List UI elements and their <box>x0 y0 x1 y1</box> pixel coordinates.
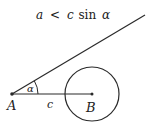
point-a-dot <box>10 92 14 96</box>
point-a-label: A <box>6 98 16 113</box>
triangle-diagram: a < c sin α α A c B <box>0 0 156 131</box>
title-lhs: a <box>36 8 43 22</box>
title-rhs-var: c <box>67 8 74 22</box>
title-operator: < <box>50 8 60 22</box>
point-b-dot <box>91 93 94 96</box>
angle-arc <box>34 81 38 94</box>
title-angle: α <box>102 8 110 22</box>
angle-alpha-label: α <box>27 83 34 94</box>
point-b-label: B <box>85 100 96 115</box>
side-c-label: c <box>47 98 53 111</box>
condition-title: a < c sin α <box>36 8 110 22</box>
title-sin: sin <box>78 8 96 22</box>
